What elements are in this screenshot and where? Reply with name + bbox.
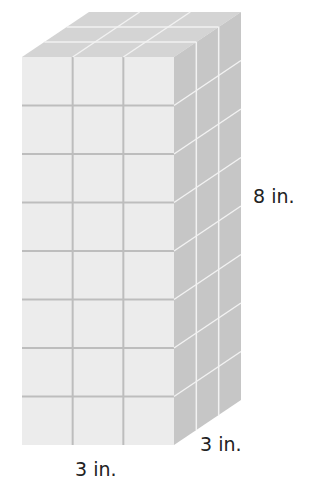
depth-label: 3 in.	[200, 433, 242, 455]
width-label: 3 in.	[75, 458, 117, 480]
height-label: 8 in.	[253, 185, 295, 207]
cube-prism-diagram	[0, 0, 321, 499]
